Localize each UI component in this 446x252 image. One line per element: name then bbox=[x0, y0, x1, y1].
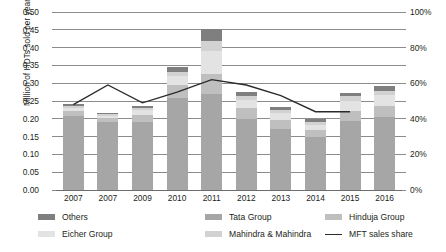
bar-segment bbox=[305, 130, 326, 137]
y-axis-tick-label: 0.40 bbox=[23, 43, 39, 53]
legend-color-swatch bbox=[205, 231, 222, 237]
y-axis-tick-label: 0.30 bbox=[23, 78, 39, 88]
y2-axis-minor-tick-mark bbox=[402, 172, 406, 173]
bar-stack bbox=[132, 106, 153, 190]
y-axis-tick-mark bbox=[52, 118, 56, 119]
bar-segment bbox=[132, 122, 153, 190]
y2-axis-minor-tick-mark bbox=[402, 101, 406, 102]
bar-segment bbox=[97, 122, 118, 190]
bar-segment bbox=[236, 100, 257, 108]
legend-color-swatch bbox=[38, 231, 55, 237]
bar-stack bbox=[270, 107, 291, 190]
y2-axis-tick-label: 100% bbox=[410, 7, 431, 17]
bar-segment bbox=[374, 106, 395, 117]
y2-axis-tick-mark bbox=[402, 154, 406, 155]
bar-stack bbox=[340, 93, 361, 191]
bar-stack bbox=[374, 86, 395, 190]
y2-axis-tick-mark bbox=[402, 118, 406, 119]
bar-stack bbox=[305, 119, 326, 190]
bar-segment bbox=[374, 117, 395, 190]
bar-segment bbox=[201, 51, 222, 74]
legend-color-swatch bbox=[325, 214, 342, 220]
y2-axis-tick-label: 60% bbox=[410, 78, 427, 88]
bar-segment bbox=[201, 29, 222, 40]
y-axis-tick-mark bbox=[52, 136, 56, 137]
gridline bbox=[56, 65, 402, 66]
y2-axis-tick-label: 20% bbox=[410, 149, 427, 159]
legend-item[interactable]: Eicher Group bbox=[38, 229, 113, 239]
bar-segment bbox=[167, 76, 188, 85]
y2-axis-tick-label: 40% bbox=[410, 114, 427, 124]
bar-segment bbox=[270, 120, 291, 129]
bar-segment bbox=[201, 94, 222, 190]
y-axis-tick-mark bbox=[52, 172, 56, 173]
y2-axis-minor-tick-mark bbox=[402, 65, 406, 66]
bar-segment bbox=[270, 129, 291, 190]
bar-segment bbox=[201, 41, 222, 52]
legend-item[interactable]: MFT sales share bbox=[325, 229, 413, 239]
y2-axis-minor-tick-mark bbox=[402, 136, 406, 137]
legend-item-label: MFT sales share bbox=[349, 229, 413, 239]
gridline bbox=[56, 12, 402, 13]
gridline bbox=[56, 83, 402, 84]
y-axis-tick-mark bbox=[52, 12, 56, 13]
bar-stack bbox=[63, 104, 84, 190]
y-axis-tick-label: 0.05 bbox=[23, 167, 39, 177]
bar-segment bbox=[167, 85, 188, 99]
y-axis-tick-label: 0.25 bbox=[23, 96, 39, 106]
legend-color-swatch bbox=[205, 214, 222, 220]
plot-area bbox=[56, 12, 402, 190]
y-axis-tick-label: 0.00 bbox=[23, 185, 39, 195]
y-axis-tick-label: 0.15 bbox=[23, 132, 39, 142]
legend-item[interactable]: Tata Group bbox=[205, 212, 272, 222]
bar-segment bbox=[236, 108, 257, 119]
legend-item-label: Eicher Group bbox=[62, 229, 113, 239]
bar-segment bbox=[236, 119, 257, 190]
bar-segment bbox=[132, 115, 153, 122]
bar-segment bbox=[305, 137, 326, 190]
y2-axis-tick-mark bbox=[402, 190, 406, 191]
bar-segment bbox=[340, 111, 361, 121]
legend-item[interactable]: Mahindra & Mahindra bbox=[205, 229, 311, 239]
chart-container: Million of HDTs sold per year 0.000.050.… bbox=[0, 0, 446, 252]
y-axis-tick-mark bbox=[52, 47, 56, 48]
y-axis-tick-label: 0.35 bbox=[23, 60, 39, 70]
bar-segment bbox=[201, 74, 222, 94]
bar-segment bbox=[340, 121, 361, 190]
y-axis-tick-mark bbox=[52, 154, 56, 155]
y2-axis-tick-mark bbox=[402, 47, 406, 48]
bar-segment bbox=[167, 98, 188, 190]
y2-axis-tick-label: 0% bbox=[410, 185, 422, 195]
y2-axis-tick-mark bbox=[402, 12, 406, 13]
y-axis-tick-label: 0.50 bbox=[23, 7, 39, 17]
legend-color-swatch bbox=[38, 214, 55, 220]
legend-item-label: Hinduja Group bbox=[349, 212, 404, 222]
y-axis-tick-label: 0.45 bbox=[23, 25, 39, 35]
legend-item-label: Others bbox=[62, 212, 88, 222]
bar-segment bbox=[340, 101, 361, 112]
legend-item-label: Mahindra & Mahindra bbox=[229, 229, 311, 239]
y-axis-tick-label: 0.20 bbox=[23, 114, 39, 124]
x-axis-tick-label: 2016 bbox=[365, 193, 405, 203]
gridline bbox=[56, 47, 402, 48]
bar-stack bbox=[167, 67, 188, 190]
legend-line-swatch bbox=[325, 231, 342, 237]
y-axis-tick-mark bbox=[52, 65, 56, 66]
bar-stack bbox=[97, 113, 118, 190]
bar-stack bbox=[201, 29, 222, 190]
bar-segment bbox=[374, 95, 395, 106]
y2-axis-tick-mark bbox=[402, 83, 406, 84]
y-axis-tick-mark bbox=[52, 101, 56, 102]
y2-axis-minor-tick-mark bbox=[402, 29, 406, 30]
chart-legend: OthersEicher GroupTata GroupMahindra & M… bbox=[0, 206, 446, 252]
y-axis-tick-mark bbox=[52, 83, 56, 84]
legend-item-label: Tata Group bbox=[229, 212, 272, 222]
legend-item[interactable]: Others bbox=[38, 212, 88, 222]
y-axis-tick-label: 0.10 bbox=[23, 149, 39, 159]
y-axis-tick-mark bbox=[52, 29, 56, 30]
y2-axis-tick-label: 80% bbox=[410, 43, 427, 53]
bar-segment bbox=[63, 116, 84, 190]
y-axis-tick-mark bbox=[52, 190, 56, 191]
legend-item[interactable]: Hinduja Group bbox=[325, 212, 404, 222]
gridline bbox=[56, 29, 402, 30]
